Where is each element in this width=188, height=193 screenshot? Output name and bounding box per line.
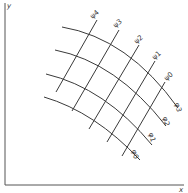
x-axis-label: x xyxy=(178,186,184,193)
psi-label-0: ψ0 xyxy=(163,70,175,82)
psi-label-1: ψ1 xyxy=(151,49,163,61)
phi-curve-1 xyxy=(46,74,152,145)
psi-curve-0 xyxy=(122,82,165,156)
psi-label-3: ψ3 xyxy=(112,17,124,29)
phi-curve-3 xyxy=(62,27,178,108)
phi-curves: φ0φ1φ2φ3 xyxy=(44,27,183,160)
phi-label-3: φ3 xyxy=(173,102,183,113)
y-axis-label: y xyxy=(6,2,12,10)
phi-curve-2 xyxy=(55,50,166,126)
psi-curve-2 xyxy=(89,45,139,129)
phi-label-2: φ2 xyxy=(161,116,171,127)
psi-label-4: ψ4 xyxy=(89,8,102,20)
psi-label-2: ψ2 xyxy=(133,33,145,45)
coordinate-grid-diagram: y x ψ0ψ1ψ2ψ3ψ4 φ0φ1φ2φ3 xyxy=(0,0,188,193)
psi-curve-3 xyxy=(72,30,119,111)
